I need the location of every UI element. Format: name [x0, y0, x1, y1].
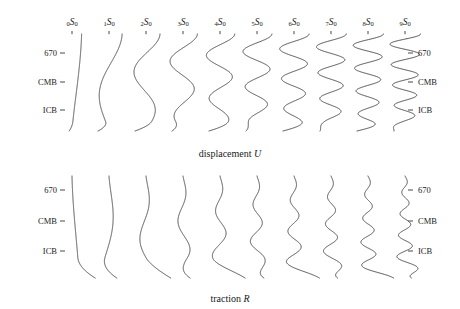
displacement-curve-0S0 — [69, 34, 81, 131]
depth-label-left-traction-670: 670 — [44, 186, 57, 195]
depth-label-right-displacement-cmb: CMB — [418, 78, 437, 87]
mode-label-5S0: 5S0 — [251, 18, 262, 28]
displacement-curve-3S0 — [170, 34, 197, 131]
traction-curve-1S0 — [104, 176, 116, 278]
traction-curve-2S0 — [140, 176, 171, 278]
traction-curve-9S0 — [397, 176, 418, 278]
mode-angular-order: 0 — [148, 20, 151, 27]
mode-label-0S0: 0S0 — [66, 18, 77, 28]
mode-label-8S0: 8S0 — [362, 18, 373, 28]
traction-curve-5S0 — [250, 176, 265, 278]
mode-angular-order: 0 — [259, 20, 262, 27]
eigenfunction-figure: 0S01S02S03S04S05S06S07S08S09S0670670CMBC… — [0, 0, 460, 309]
mode-angular-order: 0 — [74, 20, 77, 27]
depth-label-left-traction-cmb: CMB — [38, 217, 57, 226]
depth-label-right-traction-icb: ICB — [418, 247, 432, 256]
mode-angular-order: 0 — [407, 20, 410, 27]
depth-label-right-traction-cmb: CMB — [418, 217, 437, 226]
depth-label-right-traction-670: 670 — [418, 186, 431, 195]
traction-curve-0S0 — [72, 176, 95, 278]
mode-label-6S0: 6S0 — [288, 18, 299, 28]
mode-angular-order: 0 — [296, 20, 299, 27]
depth-label-right-displacement-670: 670 — [418, 49, 431, 58]
traction-curve-4S0 — [212, 176, 245, 278]
displacement-curve-4S0 — [206, 34, 234, 131]
panel-caption-variable: U — [254, 148, 261, 159]
depth-label-right-displacement-icb: ICB — [418, 106, 432, 115]
depth-label-left-displacement-cmb: CMB — [38, 78, 57, 87]
traction-curve-6S0 — [286, 176, 319, 278]
mode-label-1S0: 1S0 — [103, 18, 114, 28]
panel-caption-variable: R — [243, 293, 249, 304]
displacement-curve-7S0 — [316, 34, 346, 131]
mode-label-4S0: 4S0 — [214, 18, 225, 28]
traction-curve-7S0 — [324, 176, 342, 278]
mode-angular-order: 0 — [185, 20, 188, 27]
mode-angular-order: 0 — [222, 20, 225, 27]
displacement-curve-6S0 — [280, 34, 309, 131]
mode-angular-order: 0 — [111, 20, 114, 27]
mode-label-9S0: 9S0 — [399, 18, 410, 28]
mode-angular-order: 0 — [333, 20, 336, 27]
depth-label-left-traction-icb: ICB — [43, 247, 57, 256]
panel-caption-traction: traction R — [210, 293, 249, 304]
displacement-curve-9S0 — [390, 34, 421, 131]
displacement-curve-1S0 — [98, 34, 122, 131]
mode-label-3S0: 3S0 — [177, 18, 188, 28]
depth-label-left-displacement-670: 670 — [44, 49, 57, 58]
displacement-curve-2S0 — [134, 34, 160, 131]
mode-label-7S0: 7S0 — [325, 18, 336, 28]
traction-curve-8S0 — [361, 176, 394, 278]
panel-caption-displacement: displacement U — [199, 148, 262, 159]
panel-caption-text: displacement — [199, 148, 254, 159]
displacement-curve-8S0 — [353, 34, 383, 131]
depth-label-left-displacement-icb: ICB — [43, 106, 57, 115]
mode-label-2S0: 2S0 — [140, 18, 151, 28]
panel-caption-text: traction — [210, 293, 243, 304]
displacement-curve-5S0 — [243, 34, 272, 131]
mode-angular-order: 0 — [370, 20, 373, 27]
traction-curve-3S0 — [178, 176, 190, 278]
